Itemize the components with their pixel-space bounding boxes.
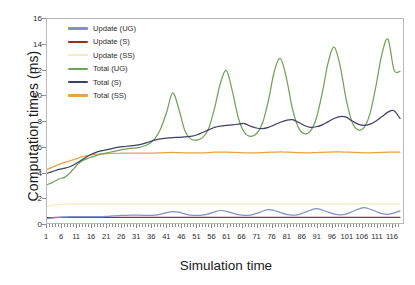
x-tick-mark-minor xyxy=(130,224,131,227)
legend-item-label: Total (SS) xyxy=(93,91,126,100)
y-tick-label: 16 xyxy=(20,14,42,23)
x-tick-mark-minor xyxy=(94,224,95,227)
x-tick-mark-minor xyxy=(220,224,221,227)
legend-color-swatch xyxy=(68,68,88,70)
x-tick-mark-minor xyxy=(398,224,399,227)
x-tick-mark-minor xyxy=(154,224,155,227)
x-tick-mark-minor xyxy=(160,224,161,227)
x-tick-mark-minor xyxy=(248,224,249,227)
x-tick-mark-major xyxy=(166,224,167,228)
x-tick-mark-minor xyxy=(163,224,164,227)
x-tick-mark-minor xyxy=(389,224,390,227)
x-tick-mark-minor xyxy=(269,224,270,227)
x-tick-mark-minor xyxy=(118,224,119,227)
x-tick-mark-minor xyxy=(82,224,83,227)
series-line xyxy=(47,204,400,207)
x-tick-mark-minor xyxy=(323,224,324,227)
x-tick-mark-minor xyxy=(205,224,206,227)
x-tick-mark-minor xyxy=(79,224,80,227)
x-tick-mark-minor xyxy=(100,224,101,227)
x-tick-mark-minor xyxy=(233,224,234,227)
x-tick-mark-minor xyxy=(350,224,351,227)
y-axis-tick-labels: 0246810121416 xyxy=(18,18,42,224)
x-tick-mark-minor xyxy=(275,224,276,227)
x-tick-mark-minor xyxy=(103,224,104,227)
y-tick-label: 2 xyxy=(20,194,42,203)
legend-item[interactable]: Total (S) xyxy=(68,78,136,87)
legend-item-label: Total (S) xyxy=(93,78,121,87)
x-tick-mark-minor xyxy=(67,224,68,227)
x-tick-mark-major xyxy=(46,224,47,228)
x-tick-mark-minor xyxy=(338,224,339,227)
x-tick-mark-minor xyxy=(374,224,375,227)
chart-figure: Computation times (ms) 0246810121416 161… xyxy=(0,0,415,285)
y-tick-label: 14 xyxy=(20,39,42,48)
x-tick-mark-major xyxy=(196,224,197,228)
x-tick-mark-minor xyxy=(223,224,224,227)
x-tick-mark-major xyxy=(76,224,77,228)
legend-item[interactable]: Update (SS) xyxy=(68,51,136,60)
legend-item[interactable]: Total (SS) xyxy=(68,91,136,100)
x-tick-mark-minor xyxy=(214,224,215,227)
x-tick-mark-minor xyxy=(112,224,113,227)
x-tick-mark-major xyxy=(151,224,152,228)
legend-item[interactable]: Update (UG) xyxy=(68,24,136,33)
series-line xyxy=(47,110,400,173)
x-tick-mark-minor xyxy=(386,224,387,227)
x-tick-mark-minor xyxy=(365,224,366,227)
legend-item[interactable]: Update (S) xyxy=(68,37,136,46)
x-tick-mark-minor xyxy=(335,224,336,227)
x-tick-mark-minor xyxy=(380,224,381,227)
x-tick-mark-minor xyxy=(236,224,237,227)
x-tick-mark-minor xyxy=(266,224,267,227)
x-tick-mark-minor xyxy=(284,224,285,227)
x-tick-mark-major xyxy=(257,224,258,228)
legend-item-label: Update (S) xyxy=(93,37,130,46)
x-tick-mark-minor xyxy=(70,224,71,227)
legend-color-swatch xyxy=(68,81,88,83)
x-tick-label: 116 xyxy=(379,232,405,241)
x-tick-mark-minor xyxy=(55,224,56,227)
x-tick-mark-minor xyxy=(199,224,200,227)
y-tick-label: 0 xyxy=(20,220,42,229)
y-tick-label: 12 xyxy=(20,65,42,74)
legend-item[interactable]: Total (UG) xyxy=(68,64,136,73)
x-tick-mark-minor xyxy=(314,224,315,227)
x-tick-mark-minor xyxy=(127,224,128,227)
x-tick-mark-minor xyxy=(85,224,86,227)
legend-item-label: Update (SS) xyxy=(93,51,135,60)
x-tick-mark-minor xyxy=(217,224,218,227)
x-tick-mark-minor xyxy=(202,224,203,227)
x-tick-mark-minor xyxy=(254,224,255,227)
x-tick-mark-minor xyxy=(278,224,279,227)
x-tick-mark-minor xyxy=(356,224,357,227)
x-tick-mark-minor xyxy=(311,224,312,227)
x-tick-mark-minor xyxy=(326,224,327,227)
x-tick-mark-minor xyxy=(341,224,342,227)
x-tick-mark-major xyxy=(61,224,62,228)
x-tick-mark-major xyxy=(287,224,288,228)
x-tick-mark-major xyxy=(392,224,393,228)
x-tick-mark-minor xyxy=(187,224,188,227)
x-tick-mark-major xyxy=(302,224,303,228)
x-tick-mark-minor xyxy=(290,224,291,227)
x-tick-mark-minor xyxy=(371,224,372,227)
legend-item-label: Update (UG) xyxy=(93,24,136,33)
x-tick-mark-minor xyxy=(142,224,143,227)
x-tick-mark-minor xyxy=(245,224,246,227)
y-tick-label: 8 xyxy=(20,117,42,126)
x-tick-mark-major xyxy=(211,224,212,228)
x-axis-title: Simulation time xyxy=(46,258,406,273)
x-tick-mark-minor xyxy=(368,224,369,227)
x-tick-mark-minor xyxy=(73,224,74,227)
x-tick-mark-minor xyxy=(97,224,98,227)
x-tick-mark-minor xyxy=(88,224,89,227)
x-tick-mark-major xyxy=(136,224,137,228)
x-tick-mark-minor xyxy=(139,224,140,227)
x-tick-mark-major xyxy=(272,224,273,228)
x-tick-mark-minor xyxy=(133,224,134,227)
x-tick-mark-minor xyxy=(58,224,59,227)
legend-item-label: Total (UG) xyxy=(93,64,128,73)
x-tick-mark-minor xyxy=(169,224,170,227)
x-tick-mark-major xyxy=(242,224,243,228)
